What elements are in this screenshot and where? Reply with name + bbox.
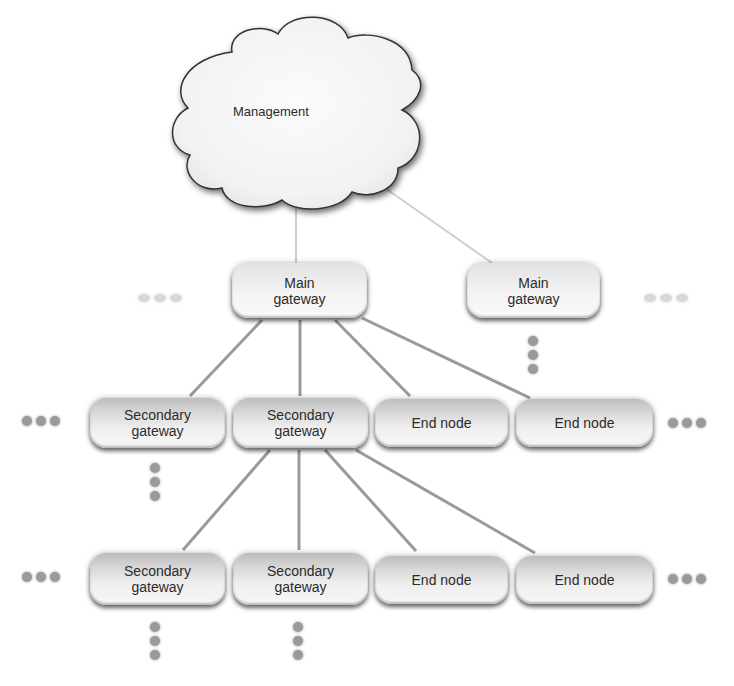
node-label: Secondary gateway (267, 563, 334, 595)
main-gateway-node[interactable]: Main gateway (232, 263, 367, 318)
secondary-gateway-node[interactable]: Secondary gateway (233, 553, 368, 605)
ellipsis-icon (642, 292, 690, 304)
ellipsis-icon (666, 572, 708, 586)
management-cloud-label: Management (233, 104, 309, 119)
node-label: Secondary gateway (267, 407, 334, 439)
end-node[interactable]: End node (375, 556, 508, 604)
link-cloud-main2 (385, 188, 492, 263)
node-label: Secondary gateway (124, 407, 191, 439)
ellipsis-icon (20, 570, 62, 584)
secondary-gateway-node[interactable]: Secondary gateway (90, 553, 225, 605)
node-label: Secondary gateway (124, 563, 191, 595)
node-label: End node (555, 572, 615, 588)
end-node[interactable]: End node (375, 399, 508, 447)
main-gateway-node[interactable]: Main gateway (467, 263, 600, 318)
node-label: Main gateway (507, 275, 559, 307)
ellipsis-icon (136, 292, 184, 304)
end-node[interactable]: End node (516, 399, 653, 447)
ellipsis-icon (20, 414, 62, 428)
node-label: Main gateway (273, 275, 325, 307)
vertical-ellipsis-icon (148, 620, 162, 662)
node-label: End node (555, 415, 615, 431)
ellipsis-icon (666, 416, 708, 430)
secondary-gateway-node[interactable]: Secondary gateway (233, 398, 368, 448)
secondary-gateway-node[interactable]: Secondary gateway (90, 398, 225, 448)
vertical-ellipsis-icon (526, 334, 540, 376)
node-label: End node (412, 572, 472, 588)
vertical-ellipsis-icon (148, 461, 162, 503)
node-label: End node (412, 415, 472, 431)
vertical-ellipsis-icon (291, 620, 305, 662)
end-node[interactable]: End node (516, 556, 653, 604)
